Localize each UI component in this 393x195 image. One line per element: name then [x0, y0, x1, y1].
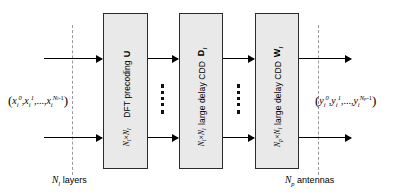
dim-times: × [122, 135, 131, 139]
dim-cols-sub: l [126, 128, 132, 130]
arrow-block2-to-block3-bottom [223, 137, 254, 138]
vertical-ellipsis-1-icon [161, 84, 167, 114]
output-term3-sub: i [358, 101, 360, 108]
caption-antennas: Np antennas [285, 175, 334, 187]
block-dft-precoding-dimensions: Nl×Nl [122, 106, 133, 168]
reference-line-left [72, 25, 73, 175]
dim-times: × [197, 135, 206, 139]
caption-layers-text: layers [63, 175, 87, 185]
arrow-block3-to-output-bottom [299, 137, 351, 138]
input-term3-sub: i [51, 101, 53, 108]
input-term1-sub: i [17, 101, 19, 108]
arrow-input-to-block1-bottom [44, 137, 102, 138]
block-dft-precoding[interactable]: U DFT precoding Nl×Nl [103, 13, 148, 169]
block-large-delay-cdd-d-dimensions: Nl×Nl [197, 106, 208, 168]
caption-antennas-text: antennas [297, 175, 334, 185]
arrow-block1-to-block2-bottom [148, 137, 178, 138]
dim-rows-sub: l [201, 139, 207, 141]
dim-times: × [273, 134, 282, 138]
dim-rows-base: N [197, 141, 206, 146]
dim-cols-base: N [273, 129, 282, 134]
arrow-input-to-block1-top [44, 58, 102, 59]
input-vector-label: (xi0,xi1,...,xiNl-1) [8, 93, 68, 109]
arrow-block2-to-block3-top [223, 58, 254, 59]
dim-rows-sub: l [126, 139, 132, 141]
block-large-delay-cdd-w-dimensions: Np×Nl [273, 106, 284, 168]
output-vector-label: (yi0,yi1,...,yiNp-1) [315, 93, 376, 109]
vertical-ellipsis-2-icon [237, 84, 243, 114]
block-diagram-canvas: U DFT precoding Nl×Nl Di large delay CDD… [0, 0, 393, 195]
input-ellipsis: ,..., [34, 95, 47, 106]
dim-cols-sub: l [201, 128, 207, 130]
dim-cols-base: N [122, 130, 131, 135]
input-close-paren: ) [64, 93, 68, 108]
input-term2-sub: i [29, 101, 31, 108]
arrow-block1-to-block2-top [148, 58, 178, 59]
caption-layers: Nl layers [52, 175, 87, 187]
block-large-delay-cdd-w[interactable]: Wi large delay CDD Np×Nl [255, 13, 299, 169]
output-close-paren: ) [372, 93, 376, 108]
dim-rows-base: N [122, 141, 131, 146]
output-ellipsis: ,..., [341, 95, 354, 106]
arrow-block3-to-output-top [299, 58, 351, 59]
block-large-delay-cdd-d[interactable]: Di large delay CDD Nl×Nl [179, 13, 223, 169]
dim-rows-base: N [273, 142, 282, 147]
output-term1-sub: i [324, 101, 326, 108]
output-term2-sub: i [336, 101, 338, 108]
dim-cols-sub: l [277, 128, 283, 130]
dim-cols-base: N [197, 130, 206, 135]
